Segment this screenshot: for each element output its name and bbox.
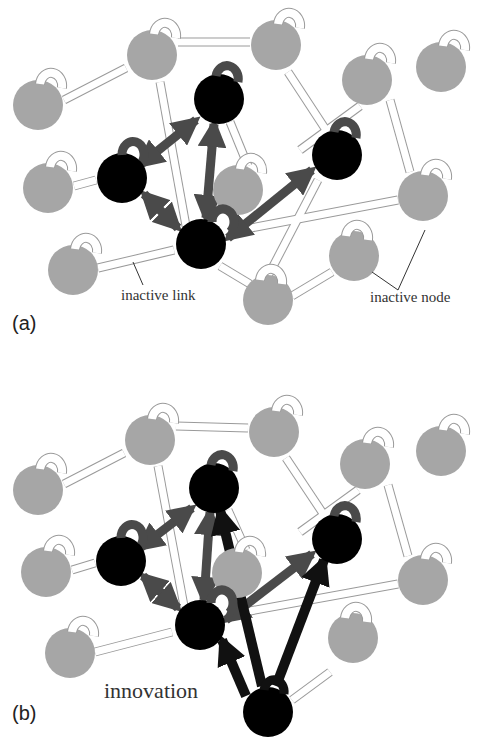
inactive-node bbox=[398, 171, 448, 221]
innovation-node bbox=[243, 687, 293, 737]
inactive-node bbox=[398, 555, 448, 605]
inactive-node bbox=[21, 547, 71, 597]
panel-a bbox=[13, 13, 466, 325]
inactive-node bbox=[125, 415, 175, 465]
active-node bbox=[175, 600, 225, 650]
panel-b-label: (b) bbox=[12, 702, 36, 725]
innovation-label: innovation bbox=[104, 678, 198, 704]
inactive-node bbox=[48, 245, 98, 295]
inactive-link-label: inactive link bbox=[121, 287, 196, 304]
inactive-node bbox=[45, 628, 95, 678]
inactive-node bbox=[13, 465, 63, 515]
inactive-node bbox=[340, 439, 390, 489]
inactive-node-label: inactive node bbox=[370, 289, 450, 306]
inactive-node bbox=[251, 20, 301, 70]
inactive-node bbox=[249, 407, 299, 457]
panel-a-label: (a) bbox=[12, 312, 36, 335]
inactive-node bbox=[13, 80, 63, 130]
inactive-node bbox=[23, 163, 73, 213]
active-node bbox=[176, 219, 226, 269]
panel-b bbox=[13, 400, 466, 737]
inactive-node bbox=[127, 30, 177, 80]
network-figure bbox=[0, 0, 482, 744]
inactive-node bbox=[416, 426, 466, 476]
inactive-node bbox=[416, 42, 466, 92]
inactive-node bbox=[342, 55, 392, 105]
